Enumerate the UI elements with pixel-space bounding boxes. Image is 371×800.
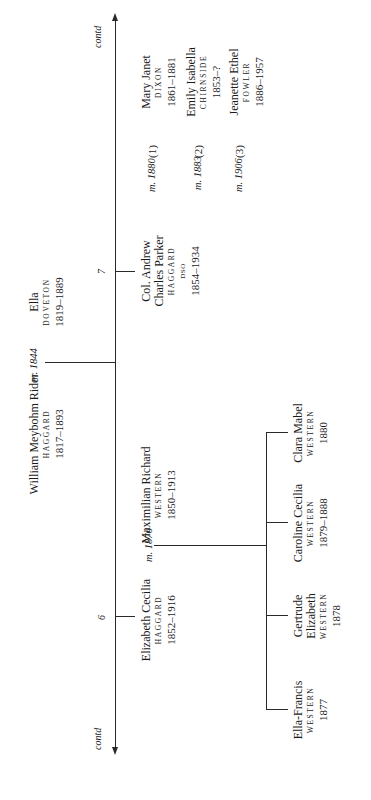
generation-number-7: 7 — [96, 269, 107, 274]
person-elizabeth-haggard: Elizabeth Cecilia HAGGARD 1852–1916 — [140, 579, 178, 661]
spouse-jeanette-fowler: Jeanette Ethel FOWLER 1886–1957 — [228, 49, 266, 116]
andrew-tick — [115, 271, 135, 272]
spouse-mary-dixon: Mary Janet DIXON 1861–1881 — [140, 55, 178, 109]
children-bracket — [266, 433, 267, 710]
arrow-right-icon — [112, 13, 118, 21]
marriage-number-2: (2) — [192, 145, 204, 158]
child-tick-1 — [266, 709, 288, 710]
root-marriage-connector — [45, 362, 115, 363]
person-andrew-haggard: Col. Andrew Charles Parker HAGGARD DSO 1… — [140, 236, 202, 307]
person-ella-doveton: Ella DOVETON 1819–1889 — [28, 277, 66, 327]
person-maximilian-western: Maximilian Richard WESTERN 1850–1913 — [140, 447, 178, 544]
child-caroline-cecilia: Caroline Cecilia WESTERN 1879–1888 — [292, 484, 330, 562]
child-ella-francis: Ella-Francis WESTERN 1877 — [292, 681, 330, 740]
child-tick-2 — [266, 615, 288, 616]
marriage-label-1906: m. 1906 — [233, 158, 244, 192]
spouse-emily-chirnside: Emily Isabella CHIRNSIDE 1853–? — [185, 47, 223, 117]
child-clara-mabel: Clara Mabel WESTERN 1880 — [292, 403, 330, 463]
family-tree-diagram: contd contd William Meybohm Rider HAGGAR… — [0, 0, 371, 800]
generation-axis — [115, 18, 116, 750]
descent-line-1876 — [154, 545, 266, 546]
arrow-left-icon — [112, 747, 118, 755]
contd-label-left: contd — [92, 728, 103, 750]
child-tick-4 — [266, 432, 288, 433]
marriage-label-1883: m. 1883 — [192, 156, 203, 190]
elizabeth-tick — [115, 616, 135, 617]
marriage-label-1844: m. 1844 — [28, 348, 39, 382]
marriage-label-1880: m. 1880 — [146, 158, 157, 192]
marriage-number-1: (1) — [146, 145, 158, 158]
contd-label-right: contd — [92, 26, 103, 48]
child-gertrude-elizabeth: Gertrude Elizabeth WESTERN 1878 — [292, 593, 343, 640]
person-william-haggard: William Meybohm Rider HAGGARD 1817–1893 — [28, 374, 66, 495]
child-tick-3 — [266, 522, 288, 523]
generation-number-6: 6 — [96, 615, 107, 620]
marriage-number-3: (3) — [233, 145, 245, 158]
